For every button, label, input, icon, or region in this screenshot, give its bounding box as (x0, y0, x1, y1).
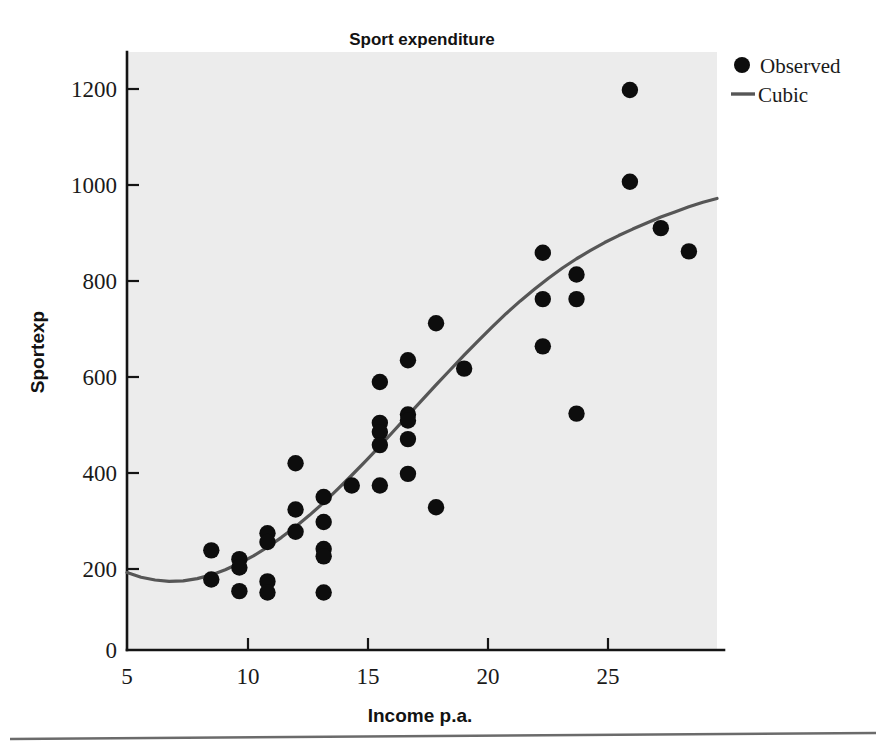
data-point (535, 291, 551, 307)
chart-title: Sport expenditure (349, 30, 494, 49)
chart-legend: Observed Cubic (731, 54, 841, 107)
y-axis-tick-labels: 1200 1000 800 600 400 200 0 (71, 77, 117, 663)
data-point (535, 245, 551, 261)
data-point (315, 514, 331, 530)
y-tick-label-400: 400 (83, 461, 118, 486)
data-point (456, 360, 472, 376)
data-point (203, 571, 219, 587)
y-tick-label-800: 800 (83, 269, 118, 294)
data-point (203, 542, 219, 558)
legend-label-cubic: Cubic (758, 83, 808, 107)
footer-divider (10, 733, 876, 739)
data-point (259, 534, 275, 550)
data-point (568, 405, 584, 421)
data-point (287, 455, 303, 471)
data-point (568, 291, 584, 307)
x-tick-label-25: 25 (597, 664, 620, 689)
x-axis-label: Income p.a. (368, 705, 473, 726)
data-point (681, 243, 697, 259)
data-point (535, 338, 551, 354)
data-point (372, 437, 388, 453)
data-point (315, 489, 331, 505)
data-point (653, 220, 669, 236)
data-point (622, 174, 638, 190)
data-point (400, 352, 416, 368)
legend-marker-observed-icon (734, 57, 750, 73)
data-point (400, 412, 416, 428)
data-point (259, 584, 275, 600)
y-tick-label-1000: 1000 (71, 173, 117, 198)
sport-expenditure-figure: Sport expenditure 1200 1000 800 600 400 … (0, 0, 886, 751)
data-point (428, 315, 444, 331)
data-point (372, 374, 388, 390)
chart-canvas: Sport expenditure 1200 1000 800 600 400 … (0, 0, 886, 751)
x-tick-label-15: 15 (357, 664, 380, 689)
x-axis-tick-labels: 5 10 15 20 25 (121, 664, 619, 689)
x-tick-label-5: 5 (121, 664, 133, 689)
data-point (315, 584, 331, 600)
data-point (344, 477, 360, 493)
data-point (231, 583, 247, 599)
y-tick-label-1200: 1200 (71, 77, 117, 102)
data-point (400, 431, 416, 447)
plot-area-background (127, 52, 717, 650)
data-point (622, 82, 638, 98)
data-point (231, 559, 247, 575)
data-point (372, 477, 388, 493)
y-tick-label-0: 0 (106, 638, 118, 663)
data-point (568, 266, 584, 282)
data-point (287, 524, 303, 540)
data-point (428, 499, 444, 515)
y-axis-label: Sportexp (27, 311, 48, 393)
data-point (400, 466, 416, 482)
y-tick-label-200: 200 (83, 557, 118, 582)
y-tick-label-600: 600 (83, 365, 118, 390)
data-point (315, 548, 331, 564)
x-tick-label-10: 10 (237, 664, 260, 689)
data-point (287, 501, 303, 517)
legend-label-observed: Observed (760, 54, 841, 78)
x-tick-label-20: 20 (477, 664, 500, 689)
